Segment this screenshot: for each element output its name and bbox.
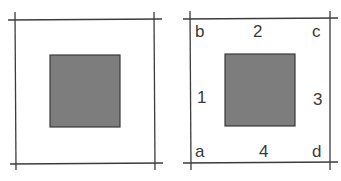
side-label-4: 4 [259, 142, 268, 161]
corner-label-d: d [312, 142, 321, 161]
left-frame-right-line [154, 12, 155, 170]
right-frame-top-line [183, 18, 338, 19]
left-frame-bottom-line [10, 163, 163, 164]
left-frame-left-line [15, 12, 16, 170]
right-frame-left-line [190, 11, 191, 170]
right-figure: b c a d 1 2 3 4 [183, 11, 338, 170]
left-inner-square [50, 55, 120, 127]
left-figure [8, 12, 163, 170]
corner-label-c: c [312, 22, 321, 41]
right-frame-bottom-line [183, 162, 338, 163]
right-inner-square [225, 54, 295, 126]
diagram-canvas: b c a d 1 2 3 4 [0, 0, 341, 181]
side-label-2: 2 [253, 22, 262, 41]
corner-label-a: a [195, 142, 205, 161]
corner-label-b: b [195, 22, 204, 41]
left-frame-top-line [8, 19, 162, 20]
side-label-1: 1 [197, 88, 206, 107]
side-label-3: 3 [313, 90, 322, 109]
